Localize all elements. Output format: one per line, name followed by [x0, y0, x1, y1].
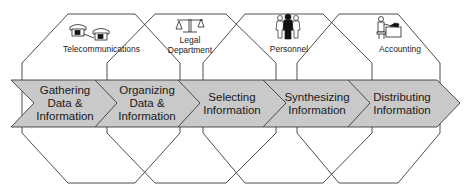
step-line: Organizing: [112, 84, 182, 97]
step-line: Information: [281, 104, 353, 117]
dept-label-telecommunications: Telecommunications: [44, 44, 159, 54]
dept-label-legal-line1: Legal: [160, 35, 220, 45]
step-line: Distributing: [366, 91, 438, 104]
step-line: Data &: [112, 97, 182, 110]
step-gathering: Gathering Data & Information: [30, 84, 100, 123]
telephone-icon: [70, 25, 109, 41]
dept-label-accounting: Accounting: [368, 44, 432, 54]
scales-icon: [176, 19, 204, 32]
step-distributing: Distributing Information: [366, 91, 438, 117]
people-icon: [276, 14, 300, 39]
step-selecting: Selecting Information: [196, 91, 268, 117]
step-line: Information: [112, 110, 182, 123]
step-synthesizing: Synthesizing Information: [281, 91, 353, 117]
step-line: Data &: [30, 97, 100, 110]
step-line: Gathering: [30, 84, 100, 97]
step-line: Information: [30, 110, 100, 123]
dept-label-personnel: Personnel: [260, 44, 318, 54]
accountant-icon: [377, 17, 401, 40]
step-line: Information: [366, 104, 438, 117]
step-line: Selecting: [196, 91, 268, 104]
dept-label-legal-line2: Department: [160, 45, 220, 55]
step-organizing: Organizing Data & Information: [112, 84, 182, 123]
step-line: Synthesizing: [281, 91, 353, 104]
step-line: Information: [196, 104, 268, 117]
